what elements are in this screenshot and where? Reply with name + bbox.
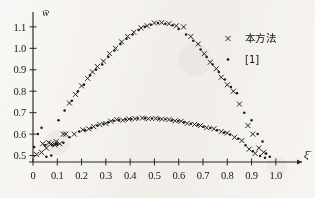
data-point-x — [188, 34, 193, 39]
data-point-x — [159, 20, 164, 25]
data-point-dot — [177, 28, 180, 31]
data-point-dot — [45, 155, 48, 158]
data-point-dot — [96, 124, 99, 127]
data-point-dot — [143, 26, 146, 29]
data-point-x — [174, 23, 179, 28]
data-point-dot — [62, 141, 65, 144]
y-tick-label: 1.0 — [13, 43, 26, 54]
data-point-dot — [68, 136, 71, 139]
data-point-dot — [211, 63, 214, 66]
data-point-x — [204, 125, 209, 130]
data-point-dot — [209, 127, 212, 130]
data-point-dot — [264, 156, 267, 159]
data-point-x — [107, 51, 112, 56]
data-point-dot — [78, 130, 81, 133]
data-point-x — [245, 123, 250, 128]
data-point-x — [152, 21, 157, 26]
x-axis-title: ξ̄ — [304, 148, 312, 161]
data-point-dot — [192, 40, 195, 43]
x-tick-label: 0.1 — [51, 170, 64, 181]
data-point-dot — [252, 150, 255, 153]
data-point-dot — [224, 78, 227, 81]
y-tick-label: 0.9 — [13, 64, 26, 75]
y-axis-title: w̄ — [42, 6, 50, 18]
x-tick-label: 0.8 — [221, 170, 234, 181]
data-point-x — [173, 118, 178, 123]
data-point-dot — [37, 133, 40, 136]
data-point-x — [95, 64, 100, 69]
y-tick-label: 0.7 — [13, 107, 26, 118]
y-tick-label: 0.6 — [13, 129, 26, 140]
data-point-dot — [125, 37, 128, 40]
data-point-dot — [71, 100, 74, 103]
data-point-x — [181, 24, 186, 29]
data-point-dot — [202, 126, 205, 128]
data-point-x — [167, 21, 172, 26]
data-point-dot — [230, 86, 233, 89]
data-point-dot — [84, 129, 87, 132]
data-point-x — [202, 51, 207, 56]
data-point-x — [192, 122, 197, 127]
data-point-dot — [112, 120, 115, 123]
legend-label: 本方法 — [245, 32, 276, 44]
data-point-dot — [56, 143, 59, 146]
data-point-x — [219, 129, 224, 134]
data-point-dot — [107, 121, 110, 124]
data-point-dot — [164, 22, 167, 25]
figure-scatter-plot: 0.50.60.70.80.91.01.100.10.20.30.40.50.6… — [0, 0, 315, 198]
data-point-dot — [237, 138, 240, 141]
legend-entry: 本方法 — [225, 32, 276, 44]
data-point-x — [146, 116, 151, 121]
data-point-x — [211, 126, 216, 131]
data-point-dot — [199, 48, 202, 51]
data-point-dot — [33, 146, 36, 149]
data-point-dot — [223, 131, 226, 134]
data-point-dot — [157, 22, 160, 25]
data-point-dot — [90, 127, 93, 130]
data-point-dot — [144, 117, 147, 120]
data-point-x — [185, 121, 190, 126]
data-point-x — [225, 82, 230, 87]
data-point-x — [239, 138, 244, 143]
data-point-x — [256, 146, 261, 151]
data-point-x — [34, 152, 39, 157]
data-point-x — [219, 75, 224, 80]
data-point-dot — [50, 154, 53, 157]
data-point-dot — [89, 74, 92, 77]
data-point-x — [101, 59, 106, 64]
data-point-dot — [137, 117, 140, 120]
data-series — [44, 117, 266, 159]
data-point-dot — [158, 117, 161, 120]
data-point-dot — [265, 152, 268, 155]
legend-label: [1] — [245, 54, 259, 65]
x-tick-label: 0.2 — [75, 170, 88, 181]
data-point-x — [250, 132, 255, 137]
x-tick-label: 0.9 — [245, 170, 258, 181]
data-point-x — [214, 66, 219, 71]
data-point-dot — [229, 133, 232, 136]
data-point-dot — [130, 118, 133, 121]
data-point-dot — [227, 58, 230, 61]
data-point-x — [39, 150, 44, 155]
data-point-dot — [118, 119, 121, 122]
data-point-dot — [183, 121, 186, 124]
data-point-x — [167, 117, 172, 122]
data-point-x — [120, 118, 125, 123]
data-point-dot — [40, 126, 43, 128]
data-point-x — [232, 135, 237, 140]
data-point-x — [231, 89, 236, 94]
x-tick-label: 0.3 — [100, 170, 113, 181]
data-point-x — [90, 69, 95, 74]
y-tick-label: 0.8 — [13, 86, 26, 97]
x-tick-label: 0.5 — [148, 170, 161, 181]
data-point-dot — [256, 133, 259, 136]
x-tick-label: 0.6 — [172, 170, 185, 181]
data-point-dot — [261, 140, 264, 143]
data-point-x — [72, 132, 77, 137]
data-point-dot — [151, 117, 154, 120]
data-point-dot — [243, 111, 246, 114]
data-point-dot — [244, 144, 247, 147]
data-point-dot — [150, 23, 153, 26]
data-point-dot — [236, 92, 239, 95]
data-point-dot — [83, 84, 86, 87]
